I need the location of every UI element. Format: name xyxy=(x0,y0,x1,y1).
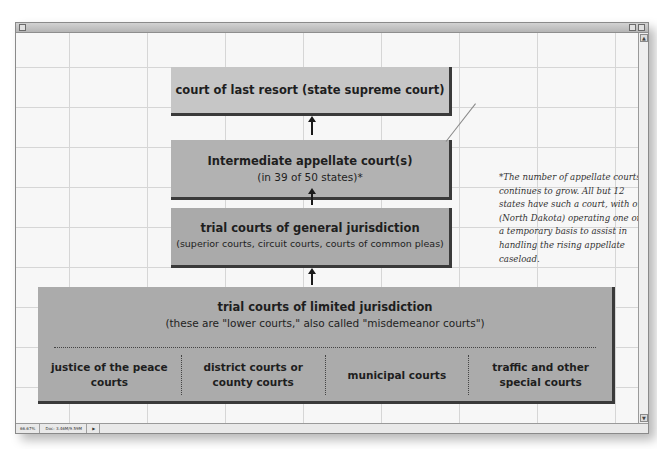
status-bar: 66.67% Doc: 3.46M/9.59M ▶ xyxy=(16,423,648,433)
box-title: trial courts of limited jurisdiction xyxy=(38,300,612,314)
general-jurisdiction-box: trial courts of general jurisdiction (su… xyxy=(171,208,452,268)
subcourt-district-county: district courts or county courts xyxy=(181,355,325,395)
scroll-up-icon[interactable]: ▲ xyxy=(640,34,648,42)
subcourt-traffic-special: traffic and other special courts xyxy=(468,355,612,395)
subcourts-row: justice of the peace courts district cou… xyxy=(38,355,612,395)
subcourt-justice-of-peace: justice of the peace courts xyxy=(38,355,181,395)
arrow-up-icon xyxy=(311,121,313,135)
box-subtitle: (superior courts, circuit courts, courts… xyxy=(171,238,449,249)
scroll-down-icon[interactable]: ▼ xyxy=(640,414,648,422)
box-subtitle: (these are "lower courts," also called "… xyxy=(38,317,612,329)
limited-jurisdiction-box: trial courts of limited jurisdiction (th… xyxy=(38,287,615,404)
subcourt-municipal: municipal courts xyxy=(325,355,469,395)
close-icon[interactable] xyxy=(19,24,26,31)
dotted-divider xyxy=(54,347,596,348)
box-title: Intermediate appellate court(s) xyxy=(171,154,449,168)
footnote-text: *The number of appellate courts continue… xyxy=(499,171,638,266)
zoom-icon[interactable] xyxy=(638,24,645,31)
collapse-icon[interactable] xyxy=(629,24,636,31)
window-titlebar[interactable] xyxy=(16,23,648,33)
box-title: court of last resort (state supreme cour… xyxy=(171,83,449,97)
document-window: court of last resort (state supreme cour… xyxy=(15,22,649,434)
zoom-level[interactable]: 66.67% xyxy=(16,424,40,433)
canvas: court of last resort (state supreme cour… xyxy=(16,33,638,423)
court-of-last-resort-box: court of last resort (state supreme cour… xyxy=(171,67,452,116)
vertical-scrollbar[interactable]: ▲ ▼ xyxy=(638,33,648,423)
arrow-up-icon xyxy=(311,193,313,205)
box-subtitle: (in 39 of 50 states)* xyxy=(171,171,449,183)
box-title: trial courts of general jurisdiction xyxy=(171,221,449,235)
doc-size: Doc: 3.46M/9.59M xyxy=(42,424,87,433)
arrow-up-icon xyxy=(311,273,313,285)
status-menu-arrow-icon[interactable]: ▶ xyxy=(88,424,100,433)
